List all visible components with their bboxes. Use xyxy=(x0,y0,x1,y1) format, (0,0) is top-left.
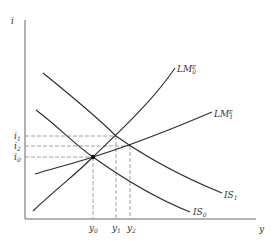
is1-label: IS1 xyxy=(223,190,238,201)
x-axis-label: y xyxy=(258,224,265,234)
y0-label: y0 xyxy=(88,223,98,234)
guide-lines xyxy=(25,136,130,219)
diagram-canvas: i y LM0E LM1E IS1 IS0 i1 i2 i0 y0 y1 y2 xyxy=(0,0,275,241)
y-axis-label: i xyxy=(11,16,14,26)
lm0-curve xyxy=(33,68,175,211)
equilibrium-point xyxy=(91,155,95,159)
is-lm-diagram: i y LM0E LM1E IS1 IS0 i1 i2 i0 y0 y1 y2 xyxy=(0,0,275,241)
lm0-label: LM0E xyxy=(176,64,196,75)
y2-label: y2 xyxy=(126,223,136,234)
lm1-curve xyxy=(35,112,212,174)
is1-curve xyxy=(43,73,222,193)
i0-label: i0 xyxy=(14,152,21,163)
lm1-label: LM1E xyxy=(213,109,233,120)
y1-label: y1 xyxy=(111,223,121,234)
is0-curve xyxy=(36,110,190,212)
i2-label: i2 xyxy=(14,141,21,152)
is0-label: IS0 xyxy=(192,207,207,218)
